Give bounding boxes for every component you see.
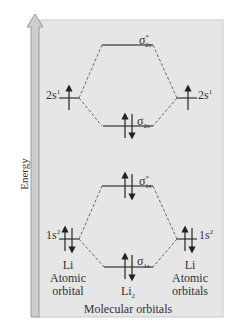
label-right-1s: 1s2 (199, 226, 213, 242)
label-sigma-star-2s: σ*2s (139, 31, 151, 52)
molecule-caption: Li2 Molecular orbitals (78, 285, 178, 316)
label-left-2s: 2s1 (46, 86, 60, 102)
energy-axis-label: Energy (18, 154, 30, 194)
label-sigma-1s: σ1s (137, 255, 150, 273)
label-left-1s: 1s2 (46, 226, 60, 242)
label-sigma-star-1s: σ*1s (139, 172, 151, 193)
label-sigma-2s: σ2s (137, 115, 150, 133)
label-right-2s: 2s1 (198, 86, 212, 102)
